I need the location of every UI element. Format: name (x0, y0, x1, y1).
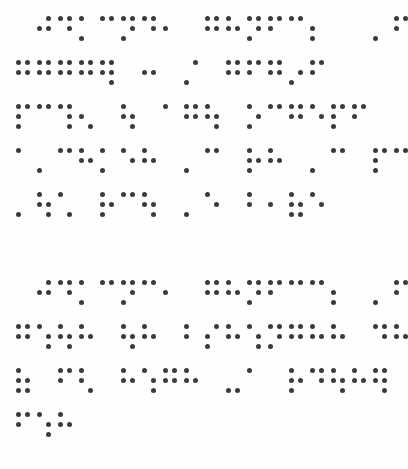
braille-dot-1 (373, 324, 378, 329)
braille-cell (161, 278, 182, 308)
braille-dot-1 (100, 148, 105, 153)
braille-cell (308, 322, 329, 352)
braille-dot-5 (151, 202, 156, 207)
braille-dot-1 (352, 368, 357, 373)
braille-cell (266, 146, 287, 176)
braille-cell (287, 14, 308, 44)
braille-cell (329, 102, 350, 132)
braille-dot-5 (214, 290, 219, 295)
braille-cell (56, 190, 77, 220)
braille-dot-1 (331, 368, 336, 373)
braille-dot-2 (268, 70, 273, 75)
braille-dot-1 (247, 104, 252, 109)
braille-cell (35, 146, 56, 176)
braille-dot-2 (142, 158, 147, 163)
braille-dot-4 (46, 60, 51, 65)
braille-dot-3 (100, 212, 105, 217)
braille-dot-1 (58, 60, 63, 65)
braille-paragraph-1 (14, 14, 408, 234)
braille-dot-1 (247, 368, 252, 373)
braille-dot-2 (394, 26, 399, 31)
braille-dot-1 (37, 412, 42, 417)
braille-dot-2 (394, 290, 399, 295)
braille-dot-2 (268, 202, 273, 207)
braille-cell (308, 366, 329, 396)
braille-dot-5 (361, 378, 366, 383)
braille-dot-4 (214, 16, 219, 21)
braille-dot-5 (403, 334, 408, 339)
braille-line-1 (14, 14, 408, 58)
braille-cell (224, 102, 245, 132)
braille-dot-1 (121, 192, 126, 197)
braille-dot-4 (298, 280, 303, 285)
braille-dot-5 (67, 70, 72, 75)
braille-line-3 (14, 102, 408, 146)
braille-dot-2 (247, 70, 252, 75)
braille-dot-2 (142, 70, 147, 75)
braille-dot-5 (256, 334, 261, 339)
braille-dot-5 (46, 26, 51, 31)
braille-dot-1 (310, 192, 315, 197)
braille-dot-5 (235, 334, 240, 339)
braille-dot-1 (205, 280, 210, 285)
braille-cell (245, 190, 266, 220)
braille-dot-6 (46, 432, 51, 437)
braille-line-6 (14, 278, 408, 322)
braille-cell (224, 14, 245, 44)
braille-dot-2 (100, 70, 105, 75)
braille-dot-2 (205, 26, 210, 31)
braille-paragraph-2 (14, 278, 408, 454)
braille-dot-1 (289, 16, 294, 21)
braille-cell (287, 102, 308, 132)
braille-dot-6 (151, 388, 156, 393)
braille-cell (119, 102, 140, 132)
braille-dot-2 (310, 26, 315, 31)
braille-dot-4 (25, 412, 30, 417)
braille-dot-5 (46, 290, 51, 295)
braille-cell (182, 322, 203, 352)
braille-cell (266, 366, 287, 396)
braille-dot-3 (289, 388, 294, 393)
braille-cell (14, 146, 35, 176)
braille-cell (98, 14, 119, 44)
braille-dot-1 (331, 324, 336, 329)
braille-dot-1 (268, 60, 273, 65)
braille-cell (56, 146, 77, 176)
braille-cell (329, 14, 350, 44)
braille-dot-1 (352, 104, 357, 109)
braille-dot-2 (373, 378, 378, 383)
braille-cell (140, 278, 161, 308)
braille-cell (77, 14, 98, 44)
braille-cell (119, 14, 140, 44)
braille-dot-6 (130, 124, 135, 129)
braille-cell (266, 190, 287, 220)
braille-dot-3 (205, 344, 210, 349)
braille-dot-3 (310, 168, 315, 173)
braille-cell (98, 102, 119, 132)
braille-cell (35, 58, 56, 88)
braille-cell (14, 322, 35, 352)
braille-dot-3 (226, 388, 231, 393)
braille-dot-2 (352, 114, 357, 119)
braille-dot-6 (382, 388, 387, 393)
braille-dot-3 (184, 168, 189, 173)
braille-cell (350, 366, 371, 396)
braille-dot-4 (382, 324, 387, 329)
braille-dot-2 (79, 70, 84, 75)
braille-cell (14, 102, 35, 132)
braille-cell (77, 278, 98, 308)
braille-dot-4 (382, 368, 387, 373)
braille-dot-1 (142, 280, 147, 285)
braille-dot-1 (121, 16, 126, 21)
braille-dot-1 (16, 60, 21, 65)
braille-cell (161, 366, 182, 396)
braille-dot-6 (88, 124, 93, 129)
braille-dot-5 (340, 378, 345, 383)
braille-cell (35, 322, 56, 352)
braille-cell (224, 278, 245, 308)
braille-dot-2 (205, 114, 210, 119)
braille-cell (161, 14, 182, 44)
braille-dot-2 (331, 290, 336, 295)
braille-dot-3 (289, 80, 294, 85)
braille-dot-2 (184, 378, 189, 383)
